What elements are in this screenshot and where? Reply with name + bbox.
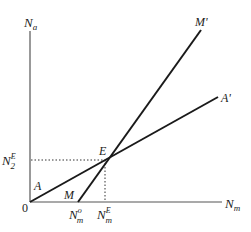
equilibrium-label: E [98, 144, 107, 158]
equilibrium-diagram: Na Nm 0 A A' M M' E NE2 Nom NEm [0, 0, 251, 232]
line-AA [30, 97, 218, 202]
origin-label: 0 [22, 201, 28, 215]
y-tick-N2E: NE2 [1, 152, 16, 171]
label-A-prime: A' [220, 91, 231, 105]
y-axis-label: Na [23, 15, 38, 32]
x-tick-NmE: NEm [96, 206, 113, 225]
label-M: M [63, 188, 75, 202]
label-A: A [33, 179, 42, 193]
x-axis-label: Nm [224, 196, 241, 213]
label-M-prime: M' [194, 15, 208, 29]
x-tick-Nmo: Nom [68, 206, 84, 225]
